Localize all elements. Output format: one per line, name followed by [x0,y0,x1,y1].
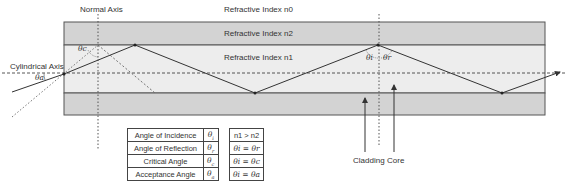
legend-row: Critical Angle θc [128,155,219,168]
legend-term: Angle of Incidence [128,129,204,142]
cladding-label: Cladding [353,156,385,165]
relation-cell: n1 > n2 [230,129,264,142]
core-label: Core [387,156,404,165]
acceptance-angle-symbol: θa [35,73,44,82]
cylindrical-axis-label: Cylindrical Axis [10,62,64,71]
acceptance-angle-arc [44,73,45,80]
relation-cell: θi = θc [230,155,264,168]
legend-terms-table: Angle of Incidence θi Angle of Reflectio… [127,128,219,181]
cladding-bottom [64,93,545,115]
legend-symbol: θa [204,168,219,181]
reflection-angle-symbol: θr [383,53,391,62]
normal-axis-label: Normal Axis [80,5,123,14]
legend-term: Acceptance Angle [128,168,204,181]
legend-symbol: θr [204,142,219,155]
legend-symbol: θi [204,129,219,142]
n0-label: Refractive Index n0 [224,5,293,14]
legend-symbol: θc [204,155,219,168]
legend-term: Angle of Reflection [128,142,204,155]
n2-label: Refractive Index n2 [224,29,293,38]
critical-angle-symbol: θc [78,44,87,53]
cladding-top [64,22,545,45]
legend-row: Angle of Reflection θr [128,142,219,155]
legend-row: Angle of Incidence θi [128,129,219,142]
n1-label: Refractive Index n1 [224,53,293,62]
legend-relations-table: n1 > n2 θi = θr θi = θc θi = θa [229,128,264,181]
relation-cell: θi = θr [230,142,264,155]
legend-term: Critical Angle [128,155,204,168]
core-region [64,45,545,93]
incidence-angle-symbol: θi [366,53,373,62]
legend-row: Acceptance Angle θa [128,168,219,181]
relation-cell: θi = θa [230,168,264,181]
